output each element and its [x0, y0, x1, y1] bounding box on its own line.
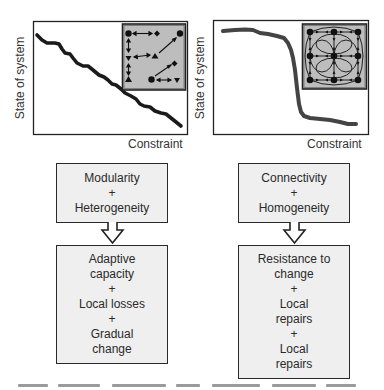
modularity-heterogeneity-box: Modularity + Heterogeneity: [56, 163, 168, 223]
hollow-down-arrow-icon: [283, 222, 307, 246]
right-plot-area: [0, 0, 384, 140]
box-line: Adaptive: [57, 252, 167, 267]
box-line: Local losses: [57, 297, 167, 312]
connectivity-homogeneity-box: Connectivity + Homogeneity: [238, 163, 350, 223]
box-line: Gradual: [57, 327, 167, 342]
box-line: +: [57, 282, 167, 297]
box-line: change: [57, 342, 167, 357]
right-x-axis-label: Constraint: [307, 137, 362, 151]
box-line: +: [57, 186, 167, 201]
resistance-to-change-box: Resistance to change + Local repairs + L…: [238, 245, 350, 379]
box-line: Modularity: [57, 171, 167, 186]
connected-network-inset: [303, 24, 367, 89]
box-line: +: [239, 186, 349, 201]
box-line: change: [239, 267, 349, 282]
hollow-down-arrow-icon: [101, 222, 125, 246]
box-line: Heterogeneity: [57, 201, 167, 216]
cropped-caption-fragment: [0, 382, 384, 390]
box-line: Local: [239, 342, 349, 357]
adaptive-capacity-box: Adaptive capacity + Local losses + Gradu…: [56, 245, 168, 364]
box-line: Local: [239, 297, 349, 312]
box-line: Connectivity: [239, 171, 349, 186]
box-line: +: [239, 282, 349, 297]
box-line: +: [239, 327, 349, 342]
box-line: Resistance to: [239, 252, 349, 267]
box-line: capacity: [57, 267, 167, 282]
box-line: repairs: [239, 357, 349, 372]
box-line: repairs: [239, 312, 349, 327]
box-line: +: [57, 312, 167, 327]
box-line: Homogeneity: [239, 201, 349, 216]
